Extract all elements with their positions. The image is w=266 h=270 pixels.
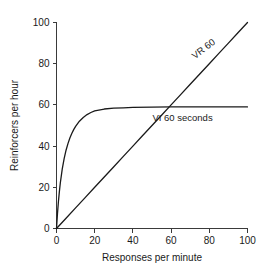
series-lines (57, 23, 248, 229)
annotation-vr-60: VR 60 (190, 36, 218, 61)
x-axis-title: Responses per minute (102, 252, 202, 263)
series-annotations: VR 60VI 60 seconds (152, 36, 217, 123)
x-tick-label: 100 (239, 235, 256, 246)
x-axis-ticks: 020406080100 (54, 229, 257, 246)
x-tick-label: 40 (127, 235, 139, 246)
y-tick-label: 20 (38, 182, 50, 193)
y-axis-title: Reinforcers per hour (9, 79, 20, 171)
chart-figure: 020406080100 020406080100 VR 60VI 60 sec… (0, 0, 266, 270)
x-tick-label: 0 (54, 235, 60, 246)
x-tick-label: 80 (204, 235, 216, 246)
y-tick-label: 100 (33, 17, 50, 28)
x-tick-label: 20 (89, 235, 101, 246)
y-tick-label: 80 (38, 58, 50, 69)
annotation-vi-60-seconds: VI 60 seconds (152, 112, 212, 123)
chart-svg: 020406080100 020406080100 VR 60VI 60 sec… (0, 0, 266, 270)
y-tick-label: 60 (38, 99, 50, 110)
y-axis-ticks: 020406080100 (33, 17, 57, 234)
series-line-vr-60 (57, 23, 248, 229)
x-tick-label: 60 (166, 235, 178, 246)
y-tick-label: 40 (38, 141, 50, 152)
y-tick-label: 0 (44, 223, 50, 234)
plot-area: 020406080100 020406080100 VR 60VI 60 sec… (33, 17, 256, 246)
